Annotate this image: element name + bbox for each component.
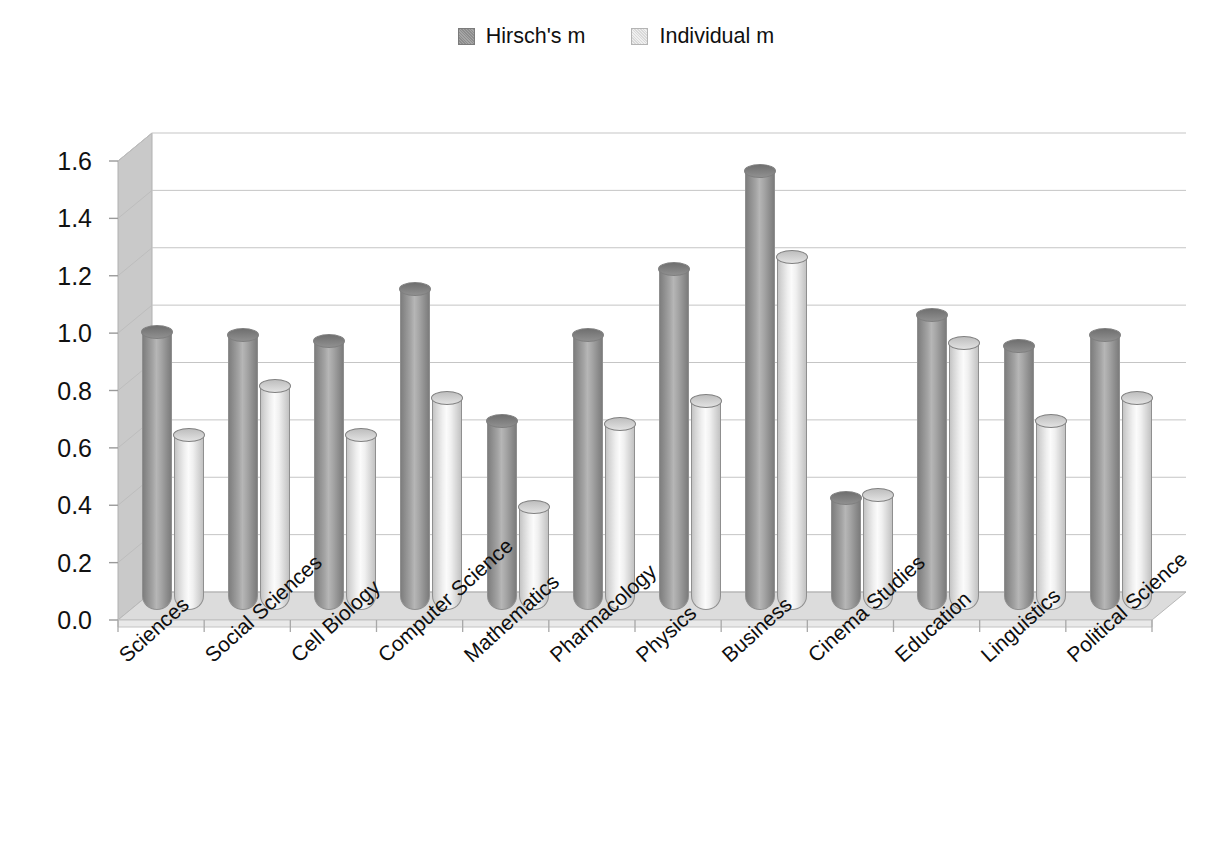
x-axis-label-sciences: Sciences: [115, 593, 192, 666]
x-axis-label-education: Education: [891, 587, 974, 665]
x-axis-label-linguistics: Linguistics: [977, 584, 1064, 665]
x-axis-label-cell-biology: Cell Biology: [287, 576, 383, 666]
x-axis-label-physics: Physics: [632, 602, 700, 666]
x-axis-label-political-science: Political Science: [1063, 548, 1191, 666]
x-axis-labels: SciencesSocial SciencesCell BiologyCompu…: [0, 0, 1232, 844]
chart-container: Hirsch's m Individual m 0.00.20.40.60.81…: [0, 0, 1232, 844]
x-axis-label-business: Business: [718, 593, 795, 666]
